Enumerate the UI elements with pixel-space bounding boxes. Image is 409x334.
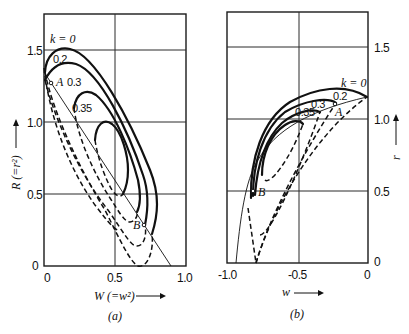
curve-k0-dashed bbox=[256, 97, 367, 263]
x-arrowhead-icon bbox=[160, 293, 166, 299]
point-b-label: B bbox=[258, 185, 266, 199]
x-axis-label: W (=w²) bbox=[94, 289, 135, 303]
y-tick-0: 0 bbox=[32, 259, 39, 273]
point-b bbox=[251, 189, 255, 193]
k-label-0: k = 0 bbox=[50, 32, 75, 46]
curve-k035-solid bbox=[262, 121, 303, 175]
point-b bbox=[142, 223, 146, 227]
point-b-label: B bbox=[133, 218, 141, 232]
y-tick-1.5: 1.5 bbox=[27, 44, 43, 58]
y-tick-1.0: 1.0 bbox=[374, 113, 390, 127]
y-axis-label: r bbox=[389, 155, 403, 160]
x-arrowhead-icon bbox=[318, 290, 324, 296]
point-a-label: A bbox=[55, 75, 64, 89]
caption-b: (b) bbox=[290, 307, 304, 321]
x-tick-0.5: 0.5 bbox=[107, 271, 123, 285]
k-label-0.3: 0.3 bbox=[67, 76, 81, 88]
k-label-0.35: 0.35 bbox=[295, 106, 315, 118]
y-tick-0.5: 0.5 bbox=[27, 188, 43, 202]
panel-b: B A k = 0 0.2 0.3 0.35 1.5 1.0 0.5 0 -1.… bbox=[218, 12, 403, 321]
curve-v-dashed bbox=[248, 208, 256, 263]
y-tick-0: 0 bbox=[374, 255, 381, 269]
figure: A B k = 0 0.2 0.3 0.35 1.5 1.0 0.5 0 0 0… bbox=[0, 0, 409, 334]
caption-a: (a) bbox=[108, 309, 122, 323]
x-tick-0: 0 bbox=[364, 268, 371, 282]
x-tick-0: 0 bbox=[44, 271, 51, 285]
y-tick-1.0: 1.0 bbox=[27, 116, 43, 130]
k-label-0.35: 0.35 bbox=[72, 102, 92, 114]
y-arrowhead-icon bbox=[393, 114, 399, 121]
x-tick-1.0: 1.0 bbox=[177, 271, 193, 285]
point-a bbox=[49, 81, 53, 85]
curve-k0-dashed bbox=[45, 72, 152, 266]
k-label-0: k = 0 bbox=[341, 76, 366, 90]
y-tick-0.5: 0.5 bbox=[374, 185, 390, 199]
y-axis-label: R (=r²) bbox=[9, 155, 23, 191]
curve-k035-dashed bbox=[95, 140, 123, 196]
y-arrowhead-icon bbox=[13, 119, 19, 126]
k-label-0.2: 0.2 bbox=[53, 53, 67, 65]
x-tick-neg0.5: -0.5 bbox=[288, 268, 308, 282]
x-tick-neg1.0: -1.0 bbox=[218, 268, 238, 282]
panel-a: A B k = 0 0.2 0.3 0.35 1.5 1.0 0.5 0 0 0… bbox=[9, 14, 193, 323]
panel-b-frame bbox=[227, 12, 368, 263]
y-tick-1.5: 1.5 bbox=[374, 41, 390, 55]
x-axis-label: w bbox=[282, 285, 290, 299]
k-label-0.2: 0.2 bbox=[333, 90, 347, 102]
point-a-label: A bbox=[334, 105, 343, 119]
